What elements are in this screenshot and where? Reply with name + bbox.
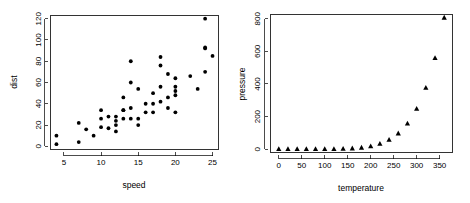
data-point [144,102,148,106]
y-axis-title-right: pressure [237,67,247,100]
data-point [285,146,290,151]
data-point [151,102,155,106]
data-point [173,85,177,89]
data-point [166,106,170,110]
data-point [188,74,192,78]
x-tick-label: 5 [62,158,67,167]
data-point [114,123,118,127]
y-tick-label: 0 [253,146,262,151]
x-tick-label: 0 [277,161,282,170]
data-point [129,59,133,63]
data-point [121,108,125,112]
data-point [359,145,364,150]
y-tick-label: 400 [253,77,262,91]
y-tick-label: 100 [34,33,43,47]
y-axis-right: 0200400600800 [253,12,268,152]
data-point [166,95,170,99]
x-tick-label: 25 [208,158,217,167]
y-tick-label: 40 [34,99,43,108]
x-tick-label: 15 [134,158,143,167]
data-point [304,146,309,151]
data-point [136,87,140,91]
data-point [92,134,96,138]
data-point [159,55,163,59]
data-point [377,141,382,146]
data-point [107,115,111,119]
data-point [414,106,419,111]
data-point [77,121,81,125]
data-point [114,130,118,134]
data-point [159,64,163,68]
scatter-panel-pressure: 0200400600800 050100150200250300350 temp… [235,0,470,203]
data-point [350,146,355,151]
data-point [151,91,155,95]
x-axis-right: 050100150200250300350 [277,155,447,170]
data-point [173,110,177,114]
x-tick-label: 10 [97,158,106,167]
data-point [129,81,133,85]
x-axis-title-left: speed [122,180,145,190]
pressure-plot-svg: 0200400600800 050100150200250300350 temp… [235,0,470,203]
data-point [55,134,59,138]
data-point [99,125,103,129]
y-tick-label: 20 [34,120,43,129]
data-point [159,100,163,104]
data-point [159,85,163,89]
data-point [55,142,59,146]
y-tick-label: 80 [34,56,43,65]
cars-plot-svg: 020406080100120 510152025 speed dist [0,0,235,203]
x-tick-label: 150 [341,161,355,170]
y-tick-label: 600 [253,44,262,58]
data-point [423,85,428,90]
data-point [121,95,125,99]
data-point [173,89,177,93]
data-point [107,126,111,130]
data-point [151,110,155,114]
data-point [386,137,391,142]
data-point [276,146,281,151]
data-point [84,127,88,131]
data-point [114,115,118,119]
x-tick-label: 250 [387,161,401,170]
data-point [144,110,148,114]
data-points-pressure [276,15,447,151]
data-point [129,117,133,121]
data-point [295,146,300,151]
data-point [121,117,125,121]
data-point [313,146,318,151]
data-point [166,72,170,76]
data-point [368,143,373,148]
data-point [129,106,133,110]
data-point [322,146,327,151]
data-point [396,131,401,136]
data-point [114,119,118,123]
data-point [99,108,103,112]
data-point [405,121,410,126]
data-point [203,70,207,74]
y-tick-label: 0 [34,144,43,149]
x-tick-label: 200 [364,161,378,170]
y-tick-label: 120 [34,11,43,25]
data-point [432,55,437,60]
x-tick-label: 100 [318,161,332,170]
x-axis-title-right: temperature [338,183,384,193]
data-point [173,93,177,97]
x-tick-label: 20 [171,158,180,167]
plot-frame-right [271,15,453,153]
x-tick-label: 350 [433,161,447,170]
data-point [173,76,177,80]
data-points-cars [55,17,215,146]
data-point [203,46,207,50]
r-plot-canvas: 020406080100120 510152025 speed dist 020… [0,0,470,203]
scatter-panel-cars: 020406080100120 510152025 speed dist [0,0,235,203]
x-axis-left: 510152025 [62,152,218,167]
data-point [136,123,140,127]
y-axis-left: 020406080100120 [34,11,48,148]
y-tick-label: 800 [253,12,262,26]
data-point [442,15,447,20]
data-point [211,54,215,58]
x-tick-label: 300 [410,161,424,170]
data-point [331,146,336,151]
y-tick-label: 200 [253,109,262,123]
data-point [196,87,200,91]
